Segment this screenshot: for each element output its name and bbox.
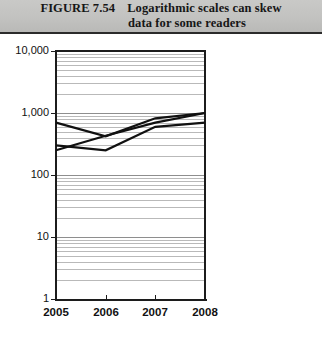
figure-header: FIGURE 7.54Logarithmic scales can skew d… bbox=[0, 0, 322, 34]
figure-caption-line-2: data for some readers bbox=[0, 16, 322, 31]
data-series-group bbox=[0, 36, 322, 339]
figure-number: FIGURE 7.54 bbox=[40, 1, 115, 15]
series-line-3 bbox=[56, 113, 205, 150]
chart-container: 10,0001,000100101 2005200620072008 bbox=[0, 36, 322, 339]
figure-title-part-2: data for some readers bbox=[128, 16, 246, 30]
figure-title-part-1: Logarithmic scales can skew bbox=[127, 1, 281, 15]
figure-caption-line-1: FIGURE 7.54Logarithmic scales can skew bbox=[0, 1, 322, 16]
